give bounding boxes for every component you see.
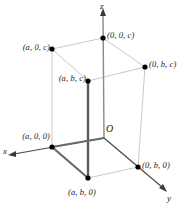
box-bold-edges [52, 81, 104, 178]
z-axis-line [103, 14, 104, 138]
edge-bottom-right-front [88, 167, 138, 178]
box-diagram-svg [0, 0, 183, 210]
vertex-dot-0-b-c [142, 64, 147, 69]
vertex-dot-a-0-c [49, 46, 54, 51]
edge-top-back-left [52, 38, 103, 49]
axis-label-z: z [100, 2, 104, 11]
figure-container: z x y O (0, 0, c) (a, 0, c) (0, b, c) (a… [0, 0, 183, 210]
edge-top-back-right [103, 38, 145, 67]
vertex-label-a-b-c: (a, b, c) [59, 74, 86, 83]
edge-top-front-right [88, 67, 145, 81]
vertex-label-a-b-0: (a, b, 0) [68, 188, 96, 197]
edge-bottom-front-left [52, 147, 88, 178]
vertex-label-a-0-0: (a, 0, 0) [22, 132, 50, 141]
vertex-label-0-b-0: (0, b, 0) [142, 161, 170, 170]
edge-vertical-0b0 [138, 67, 145, 167]
x-axis-arrowhead [8, 151, 16, 157]
axis-label-y: y [167, 194, 171, 203]
vertex-label-0-b-c: (0, b, c) [149, 60, 176, 69]
box-light-edges [52, 38, 145, 178]
vertex-dot-a-b-0 [85, 175, 90, 180]
vertex-dot-0-0-c [100, 35, 105, 40]
axis-label-x: x [3, 147, 7, 156]
origin-label: O [106, 124, 113, 134]
vertex-dot-0-b-0 [135, 164, 140, 169]
edge-bottom-back-left [52, 138, 104, 147]
vertex-dot-a-0-0 [49, 144, 54, 149]
vertex-label-0-0-c: (0, 0, c) [107, 31, 134, 40]
vertex-label-a-0-c: (a, 0, c) [23, 43, 50, 52]
vertex-dot-a-b-c [85, 78, 90, 83]
